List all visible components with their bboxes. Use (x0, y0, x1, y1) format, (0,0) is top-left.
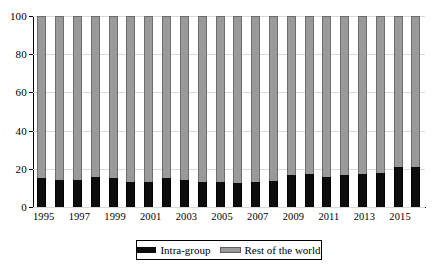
bar-segment-intra-group[interactable] (394, 167, 403, 207)
bar-column-2006[interactable] (229, 16, 247, 207)
bar-segment-rest-of-the-world[interactable] (233, 16, 242, 183)
bar-segment-intra-group[interactable] (269, 181, 278, 207)
bar-stack (305, 16, 314, 207)
bar-column-1999[interactable] (104, 16, 122, 207)
bar-stack (216, 16, 225, 207)
bar-segment-intra-group[interactable] (73, 180, 82, 207)
bar-segment-intra-group[interactable] (251, 182, 260, 207)
bar-segment-rest-of-the-world[interactable] (269, 16, 278, 181)
bar-segment-intra-group[interactable] (305, 174, 314, 207)
bar-segment-rest-of-the-world[interactable] (37, 16, 46, 178)
chart-legend: Intra-group Rest of the world (136, 240, 322, 260)
x-tick-label-2015: 2015 (389, 210, 410, 226)
legend-swatch-icon-intra-group (137, 247, 156, 253)
bar-column-2014[interactable] (371, 16, 389, 207)
bar-segment-rest-of-the-world[interactable] (73, 16, 82, 180)
bar-segment-rest-of-the-world[interactable] (216, 16, 225, 182)
bar-segment-rest-of-the-world[interactable] (55, 16, 64, 180)
bar-segment-intra-group[interactable] (340, 175, 349, 207)
bar-segment-rest-of-the-world[interactable] (198, 16, 207, 182)
bar-segment-rest-of-the-world[interactable] (287, 16, 296, 175)
x-tick-label-2003: 2003 (176, 210, 197, 226)
legend-label-intra-group: Intra-group (160, 245, 210, 256)
bar-segment-intra-group[interactable] (180, 180, 189, 207)
x-tick-label-1997: 1997 (69, 210, 90, 226)
x-tick-label-2009: 2009 (283, 210, 304, 226)
bar-segment-intra-group[interactable] (216, 182, 225, 207)
bar-column-2001[interactable] (140, 16, 158, 207)
bar-column-2000[interactable] (122, 16, 140, 207)
bar-segment-intra-group[interactable] (91, 177, 100, 207)
bar-stack (322, 16, 331, 207)
bar-segment-rest-of-the-world[interactable] (144, 16, 153, 182)
bar-segment-intra-group[interactable] (162, 178, 171, 207)
bar-segment-intra-group[interactable] (109, 178, 118, 207)
bar-segment-intra-group[interactable] (322, 177, 331, 207)
bar-segment-intra-group[interactable] (358, 174, 367, 207)
bar-column-1998[interactable] (86, 16, 104, 207)
x-tick-label-1999: 1999 (104, 210, 125, 226)
bar-segment-rest-of-the-world[interactable] (358, 16, 367, 174)
bar-segment-intra-group[interactable] (144, 182, 153, 207)
bar-stack (55, 16, 64, 207)
bar-column-2016[interactable] (407, 16, 425, 207)
bar-column-1997[interactable] (69, 16, 87, 207)
bar-column-2013[interactable] (354, 16, 372, 207)
bar-column-2015[interactable] (389, 16, 407, 207)
bar-stack (251, 16, 260, 207)
bar-column-2003[interactable] (176, 16, 194, 207)
bar-segment-intra-group[interactable] (126, 182, 135, 207)
bar-segment-rest-of-the-world[interactable] (251, 16, 260, 182)
bar-segment-intra-group[interactable] (198, 182, 207, 207)
bar-segment-intra-group[interactable] (411, 167, 420, 207)
x-tick-label-2013: 2013 (354, 210, 375, 226)
bar-segment-rest-of-the-world[interactable] (305, 16, 314, 174)
bar-column-2012[interactable] (336, 16, 354, 207)
legend-item-rest-of-the-world: Rest of the world (220, 245, 321, 256)
legend-label-rest-of-the-world: Rest of the world (245, 245, 321, 256)
bar-segment-rest-of-the-world[interactable] (126, 16, 135, 182)
bar-segment-rest-of-the-world[interactable] (411, 16, 420, 167)
bar-segment-rest-of-the-world[interactable] (180, 16, 189, 180)
bar-segment-rest-of-the-world[interactable] (162, 16, 171, 178)
bar-segment-intra-group[interactable] (55, 180, 64, 207)
stacked-bar-chart: 020406080100 1995 1997 1999 2001 2003 20… (0, 0, 441, 267)
bar-column-2005[interactable] (211, 16, 229, 207)
bar-segment-intra-group[interactable] (287, 175, 296, 207)
legend-swatch-icon-rest-of-the-world (220, 247, 241, 253)
bar-stack (144, 16, 153, 207)
bar-column-2008[interactable] (265, 16, 283, 207)
gridline-0: 0 (33, 207, 425, 208)
bar-stack (73, 16, 82, 207)
bar-column-2004[interactable] (193, 16, 211, 207)
bar-segment-rest-of-the-world[interactable] (340, 16, 349, 175)
bar-segment-rest-of-the-world[interactable] (394, 16, 403, 167)
plot-area: 020406080100 (33, 16, 425, 207)
bar-column-2007[interactable] (247, 16, 265, 207)
bar-segment-intra-group[interactable] (233, 183, 242, 207)
bar-column-1996[interactable] (51, 16, 69, 207)
bar-segment-rest-of-the-world[interactable] (91, 16, 100, 177)
bar-column-2011[interactable] (318, 16, 336, 207)
bar-stack (376, 16, 385, 207)
bar-column-1995[interactable] (33, 16, 51, 207)
bar-column-2010[interactable] (300, 16, 318, 207)
bar-segment-rest-of-the-world[interactable] (322, 16, 331, 177)
bar-segment-intra-group[interactable] (37, 178, 46, 207)
bar-segment-rest-of-the-world[interactable] (376, 16, 385, 173)
bar-stack (358, 16, 367, 207)
y-tick-mark-0 (29, 207, 33, 208)
bar-column-2009[interactable] (282, 16, 300, 207)
x-tick-label-2005: 2005 (211, 210, 232, 226)
y-tick-label-80: 80 (16, 49, 27, 60)
bar-stack (198, 16, 207, 207)
bar-stack (37, 16, 46, 207)
bar-column-2002[interactable] (158, 16, 176, 207)
bar-stack (394, 16, 403, 207)
bar-stack (162, 16, 171, 207)
bar-segment-rest-of-the-world[interactable] (109, 16, 118, 178)
y-tick-label-20: 20 (16, 163, 27, 174)
bar-segment-intra-group[interactable] (376, 173, 385, 207)
bar-stack (233, 16, 242, 207)
x-tick-label-1995: 1995 (33, 210, 54, 226)
